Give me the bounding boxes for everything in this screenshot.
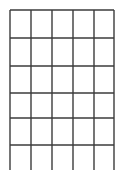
grid-cell-r2-c1[interactable] xyxy=(10,38,31,66)
grid-cell-r1-c3[interactable] xyxy=(52,10,73,38)
grid-cell-r5-c3[interactable] xyxy=(52,118,73,145)
grid-cell-r5-c1[interactable] xyxy=(10,118,31,145)
grid-cell-r2-c4[interactable] xyxy=(73,38,94,66)
grid-cell-r2-c5[interactable] xyxy=(94,38,114,66)
grid-cell-r1-c1[interactable] xyxy=(10,10,31,38)
grid-cell-r4-c2[interactable] xyxy=(31,93,52,118)
grid-cell-r3-c3[interactable] xyxy=(52,66,73,93)
grid-cell-r4-c1[interactable] xyxy=(10,93,31,118)
grid-cell-r3-c2[interactable] xyxy=(31,66,52,93)
grid-cell-r5-c2[interactable] xyxy=(31,118,52,145)
grid-canvas xyxy=(0,0,127,180)
grid-cell-r1-c2[interactable] xyxy=(31,10,52,38)
grid-cell-r2-c2[interactable] xyxy=(31,38,52,66)
grid-cell-r3-c5[interactable] xyxy=(94,66,114,93)
grid-cell-r5-c5[interactable] xyxy=(94,118,114,145)
grid-cell-r2-c3[interactable] xyxy=(52,38,73,66)
grid-cell-r3-c4[interactable] xyxy=(73,66,94,93)
grid-cell-r4-c5[interactable] xyxy=(94,93,114,118)
grid-cell-r4-c4[interactable] xyxy=(73,93,94,118)
grid-cell-r5-c4[interactable] xyxy=(73,118,94,145)
grid-cell-r4-c3[interactable] xyxy=(52,93,73,118)
grid-cell-r1-c5[interactable] xyxy=(94,10,114,38)
grid-cell-r3-c1[interactable] xyxy=(10,66,31,93)
grid-cell-r1-c4[interactable] xyxy=(73,10,94,38)
